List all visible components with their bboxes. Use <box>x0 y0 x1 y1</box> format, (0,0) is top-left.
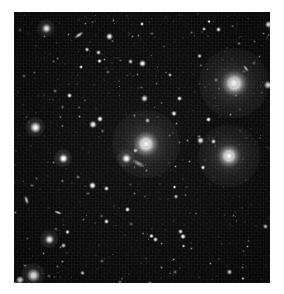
point-source <box>213 106 214 107</box>
point-source <box>197 13 199 15</box>
point-source <box>214 78 217 81</box>
point-source <box>186 139 189 142</box>
point-source <box>258 25 259 26</box>
point-source <box>194 35 195 36</box>
point-source <box>136 73 139 76</box>
point-source <box>121 277 123 279</box>
point-source <box>108 256 110 258</box>
point-source <box>118 80 120 82</box>
point-source <box>84 22 87 25</box>
point-source <box>148 281 151 283</box>
point-source <box>160 102 162 104</box>
point-source <box>204 191 205 192</box>
point-source <box>159 175 161 177</box>
point-source <box>231 226 233 228</box>
point-source <box>65 230 70 235</box>
point-source <box>173 220 174 221</box>
point-source <box>89 121 96 128</box>
point-source <box>218 87 221 90</box>
point-source <box>26 237 29 240</box>
point-source <box>62 224 64 226</box>
point-source <box>174 165 177 168</box>
point-source <box>207 35 209 37</box>
point-source <box>86 192 90 196</box>
point-source <box>16 276 24 283</box>
point-source <box>266 146 268 148</box>
point-source <box>97 116 103 122</box>
edge-on-right <box>242 64 249 72</box>
point-source <box>190 31 193 34</box>
point-source <box>59 229 60 230</box>
point-source <box>204 159 206 161</box>
point-source <box>185 186 187 188</box>
point-source <box>252 61 256 65</box>
point-source <box>255 225 257 227</box>
point-source <box>104 258 105 259</box>
point-source <box>202 27 206 31</box>
point-source <box>22 74 25 77</box>
point-source <box>79 201 81 203</box>
point-source <box>108 149 109 150</box>
point-source <box>104 186 109 191</box>
point-source <box>75 131 77 133</box>
point-source <box>71 277 72 278</box>
point-source <box>264 81 270 89</box>
point-source <box>208 137 210 139</box>
point-source <box>150 32 153 35</box>
point-source <box>61 125 64 128</box>
point-source <box>57 79 58 80</box>
point-source <box>67 233 68 234</box>
point-source <box>62 220 63 221</box>
point-source <box>238 37 240 39</box>
point-source <box>145 164 146 165</box>
point-source <box>91 21 93 23</box>
point-source <box>178 141 181 144</box>
point-source <box>228 83 231 86</box>
point-source <box>160 277 162 279</box>
point-source <box>250 128 252 130</box>
point-source <box>141 22 143 24</box>
point-source <box>265 21 270 28</box>
point-source <box>172 132 174 134</box>
point-source <box>114 57 116 59</box>
point-source <box>226 265 227 266</box>
point-source <box>227 158 230 161</box>
point-source <box>123 159 124 160</box>
point-source <box>170 169 172 171</box>
point-source <box>218 258 220 260</box>
point-source <box>106 70 110 74</box>
point-source <box>139 278 141 280</box>
point-source <box>57 272 58 273</box>
point-source <box>238 144 240 146</box>
point-source <box>188 160 191 163</box>
point-source <box>128 59 133 64</box>
point-source <box>235 216 236 217</box>
point-source <box>212 176 213 177</box>
point-source <box>182 37 184 39</box>
point-source <box>95 20 97 22</box>
galaxy-center-outer-halo <box>112 110 180 178</box>
point-source <box>209 262 212 265</box>
point-source <box>230 150 232 152</box>
point-source <box>182 159 184 161</box>
point-source <box>78 106 81 109</box>
point-source <box>218 236 219 237</box>
point-source <box>50 121 52 123</box>
point-source <box>141 95 148 102</box>
star-left-lower-halo <box>40 230 57 247</box>
point-source <box>95 15 96 16</box>
point-source <box>22 104 24 106</box>
point-source <box>132 75 134 77</box>
point-source <box>47 238 48 239</box>
point-source <box>66 252 68 254</box>
point-source <box>128 273 130 275</box>
point-source <box>47 161 49 163</box>
point-source <box>140 86 142 88</box>
point-source <box>111 68 113 70</box>
field-vignette <box>14 12 270 283</box>
point-source <box>133 166 135 168</box>
point-source <box>201 165 205 169</box>
point-source <box>108 92 110 94</box>
point-source <box>211 278 213 280</box>
point-source <box>144 195 146 197</box>
